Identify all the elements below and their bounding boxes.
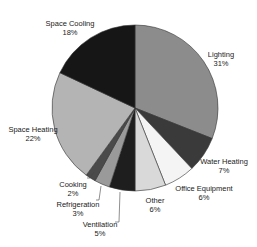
slice-label-cooking: Cooking2% xyxy=(59,180,87,198)
pie-slices xyxy=(52,25,218,191)
slice-label-name: Space Heating xyxy=(8,125,57,134)
leader-line-ventilation xyxy=(115,192,120,222)
slice-label-percent: 6% xyxy=(146,205,165,214)
slice-label-refrigeration: Refrigeration3% xyxy=(57,200,100,218)
pie-chart xyxy=(0,0,257,247)
slice-label-name: Office Equipment xyxy=(175,184,232,193)
slice-label-percent: 5% xyxy=(83,229,118,238)
slice-label-name: Lighting xyxy=(208,50,234,59)
slice-label-name: Space Cooling xyxy=(46,19,95,28)
slice-label-office-equipment: Office Equipment6% xyxy=(175,184,232,202)
slice-label-percent: 6% xyxy=(175,193,232,202)
slice-label-name: Cooking xyxy=(59,180,87,189)
slice-label-percent: 7% xyxy=(200,166,248,175)
slice-label-ventilation: Ventilation5% xyxy=(83,220,118,238)
slice-label-name: Water Heating xyxy=(200,157,248,166)
slice-label-percent: 18% xyxy=(46,28,95,37)
slice-label-name: Ventilation xyxy=(83,220,118,229)
slice-label-percent: 3% xyxy=(57,209,100,218)
slice-label-space-cooling: Space Cooling18% xyxy=(46,19,95,37)
slice-label-water-heating: Water Heating7% xyxy=(200,157,248,175)
slice-label-space-heating: Space Heating22% xyxy=(8,125,57,143)
slice-label-other: Other6% xyxy=(146,196,165,214)
slice-label-percent: 31% xyxy=(208,59,234,68)
slice-label-name: Other xyxy=(146,196,165,205)
slice-label-lighting: Lighting31% xyxy=(208,50,234,68)
slice-label-percent: 2% xyxy=(59,189,87,198)
slice-label-name: Refrigeration xyxy=(57,200,100,209)
leader-line-refrigeration xyxy=(96,186,101,200)
slice-label-percent: 22% xyxy=(8,134,57,143)
